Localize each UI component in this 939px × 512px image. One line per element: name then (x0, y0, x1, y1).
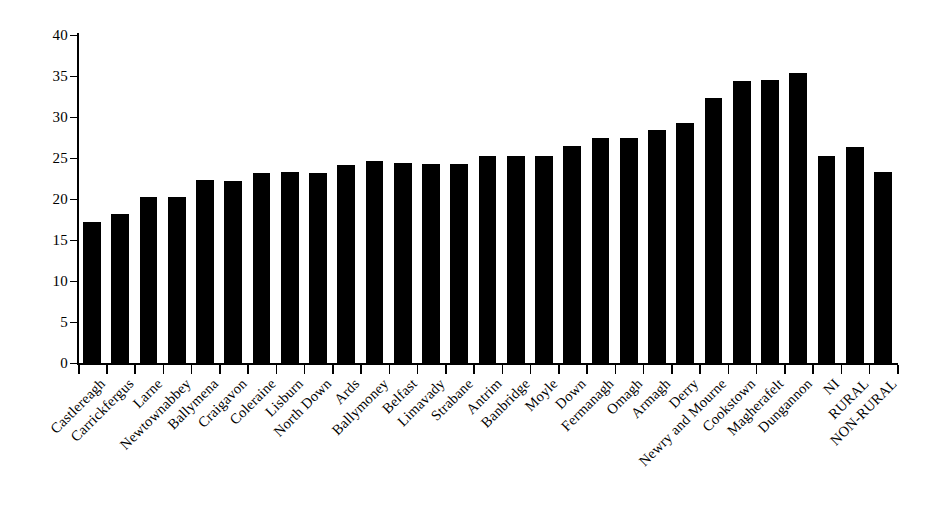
y-axis-tick-label: 25 (8, 151, 68, 166)
bar (818, 156, 836, 363)
x-axis-tick (812, 365, 814, 374)
x-axis-tick (869, 365, 871, 374)
bar (422, 164, 440, 363)
x-axis-tick (389, 365, 391, 374)
y-axis-tick-label: 5 (8, 315, 68, 330)
x-axis-tick-label: NI (821, 376, 842, 397)
x-axis-tick (360, 365, 362, 374)
x-axis-tick (530, 365, 532, 374)
bar (281, 172, 299, 363)
x-axis-tick (445, 365, 447, 374)
bar (168, 197, 186, 363)
bar (479, 156, 497, 363)
bar (224, 181, 242, 363)
x-axis-tick (106, 365, 108, 374)
x-axis-tick (191, 365, 193, 374)
y-axis-tick (70, 35, 78, 36)
y-axis-tick-label: 0 (8, 356, 68, 371)
y-axis-tick (70, 199, 78, 200)
bar (309, 173, 327, 363)
x-axis-tick (841, 365, 843, 374)
x-axis-tick (784, 365, 786, 374)
plot-area (78, 35, 897, 363)
x-axis-tick (671, 365, 673, 374)
bar (111, 214, 129, 363)
x-axis-tick (78, 365, 80, 374)
bar (620, 138, 638, 363)
bar (337, 165, 355, 363)
y-axis-tick-label: 40 (8, 28, 68, 43)
bar (846, 147, 864, 363)
bar (789, 73, 807, 363)
y-axis-tick-label: 10 (8, 274, 68, 289)
x-axis-tick (502, 365, 504, 374)
x-axis-tick (643, 365, 645, 374)
x-axis-tick (615, 365, 617, 374)
bar-chart: 0510152025303540 CastlereaghCarrickfergu… (0, 0, 939, 512)
x-axis-tick (276, 365, 278, 374)
x-axis-tick (332, 365, 334, 374)
x-axis-tick (247, 365, 249, 374)
y-axis-tick (70, 363, 78, 364)
bar (648, 130, 666, 363)
x-axis-tick (699, 365, 701, 374)
bar (450, 164, 468, 363)
x-axis-tick (304, 365, 306, 374)
bar (874, 172, 892, 363)
x-axis-tick (134, 365, 136, 374)
bar (535, 156, 553, 363)
x-axis-line (77, 363, 898, 365)
y-axis-tick-label: 30 (8, 110, 68, 125)
x-axis-tick (558, 365, 560, 374)
y-axis-tick (70, 322, 78, 323)
y-axis-tick (70, 281, 78, 282)
bar (592, 138, 610, 363)
bar (705, 98, 723, 363)
y-axis-tick (70, 76, 78, 77)
x-axis-tick (897, 365, 899, 374)
y-axis-tick (70, 117, 78, 118)
y-axis-tick-label: 15 (8, 233, 68, 248)
bar (394, 163, 412, 363)
bar (507, 156, 525, 363)
bar (140, 197, 158, 363)
bar (563, 146, 581, 363)
x-axis-tick-label-text: NI (821, 376, 842, 397)
bar (733, 81, 751, 363)
bar (676, 123, 694, 363)
x-axis-tick (219, 365, 221, 374)
y-axis-tick (70, 240, 78, 241)
bar (366, 161, 384, 363)
bar (83, 222, 101, 363)
y-axis-tick-label: 20 (8, 192, 68, 207)
x-axis-tick (163, 365, 165, 374)
bar (253, 173, 271, 363)
x-axis-tick (586, 365, 588, 374)
bar (196, 180, 214, 363)
x-axis-tick (756, 365, 758, 374)
bar (761, 80, 779, 363)
x-axis-tick (417, 365, 419, 374)
x-axis-tick (728, 365, 730, 374)
y-axis-tick (70, 158, 78, 159)
x-axis-labels: CastlereaghCarrickfergusLarneNewtownabbe… (0, 376, 939, 512)
y-axis-tick-label: 35 (8, 69, 68, 84)
x-axis-tick (473, 365, 475, 374)
